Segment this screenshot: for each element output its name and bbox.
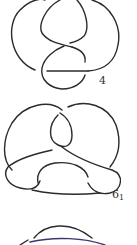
knot-figure-6-1: 61 [0, 95, 137, 210]
knot-figure-4: 4 [0, 0, 137, 90]
knot-label-number: 4 [99, 74, 106, 87]
knot-label: 61 [112, 189, 124, 202]
knot-label-number: 6 [112, 188, 119, 201]
knot-figure-partial [0, 220, 137, 245]
knot-label-subscript: 1 [119, 193, 124, 202]
knot-label: 4 [99, 75, 106, 86]
figure-eight-knot-diagram [0, 0, 137, 92]
partial-knot-diagram [0, 220, 137, 245]
